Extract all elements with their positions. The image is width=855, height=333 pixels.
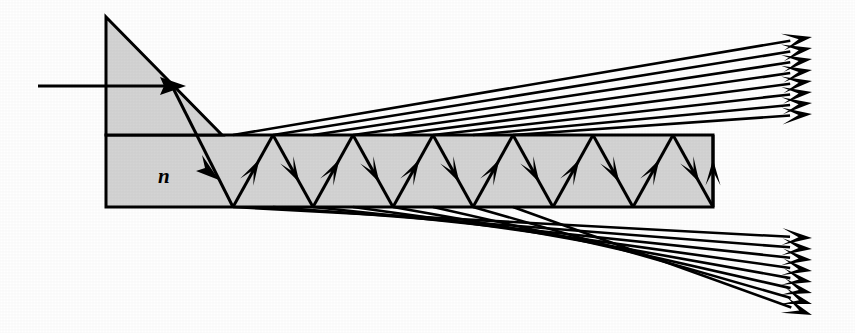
refractive-index-label: n bbox=[158, 164, 170, 188]
optics-figure: n bbox=[0, 0, 855, 333]
upper-output-beam-group bbox=[233, 34, 812, 135]
coupling-prism bbox=[106, 17, 222, 135]
ray-diagram-svg: n bbox=[0, 0, 855, 333]
upper-output-ray bbox=[313, 62, 790, 135]
lower-output-ray bbox=[513, 207, 791, 308]
lower-output-beam-group bbox=[233, 207, 812, 315]
